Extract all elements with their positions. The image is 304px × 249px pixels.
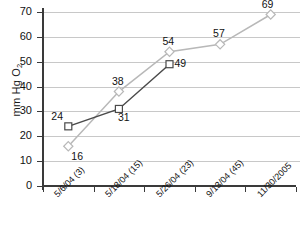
data-point-diamond: [216, 40, 225, 49]
data-label: 57: [213, 27, 225, 39]
chart-container: mm Hg O2 010203040506070 5/6/04 (3)5/18/…: [0, 0, 304, 249]
data-label: 54: [163, 35, 175, 47]
data-label: 38: [112, 75, 124, 87]
data-point-square: [65, 123, 72, 130]
data-label: 16: [71, 150, 83, 162]
data-point-diamond: [266, 10, 275, 19]
data-label: 49: [175, 57, 187, 69]
data-label: 69: [262, 0, 274, 10]
data-label: 31: [118, 111, 130, 123]
data-point-square: [166, 61, 173, 68]
data-label: 24: [51, 110, 63, 122]
series-layer: [0, 0, 304, 249]
